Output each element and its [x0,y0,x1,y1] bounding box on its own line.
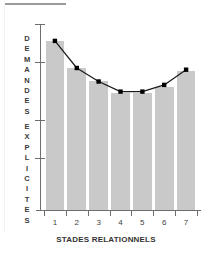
x-axis-tick-label: 4 [111,218,131,227]
plot-area: 1234567 [0,0,212,255]
x-axis-tick [131,211,132,216]
x-axis-tick [88,211,89,216]
y-axis-tick [35,24,45,25]
y-axis-tick [35,158,45,159]
x-axis-tick-label: 6 [154,218,174,227]
x-axis-tick [110,211,111,216]
x-axis-tick [66,211,67,216]
x-axis-tick [153,211,154,216]
x-axis-tick-label: 5 [132,218,152,227]
bar [89,81,108,210]
x-axis-tick [197,211,198,216]
y-axis-tick [35,62,45,63]
bar [111,93,130,210]
x-axis-line [36,210,201,211]
x-axis-tick-label: 1 [45,218,65,227]
x-axis-tick [44,211,45,216]
x-axis-tick-label: 3 [89,218,109,227]
chart-figure: DEMANDES EXPLICITES 1234567 STADES RELAT… [0,0,212,255]
x-axis-title: STADES RELATIONNELS [0,235,212,244]
bar [46,41,65,210]
x-axis-tick [175,211,176,216]
bar [133,93,152,210]
y-axis-tick [35,120,45,121]
bar [67,68,86,210]
y-axis-line [40,24,41,211]
bar [155,87,174,210]
x-axis-tick-label: 2 [67,218,87,227]
bar [177,71,196,210]
x-axis-tick-label: 7 [176,218,196,227]
